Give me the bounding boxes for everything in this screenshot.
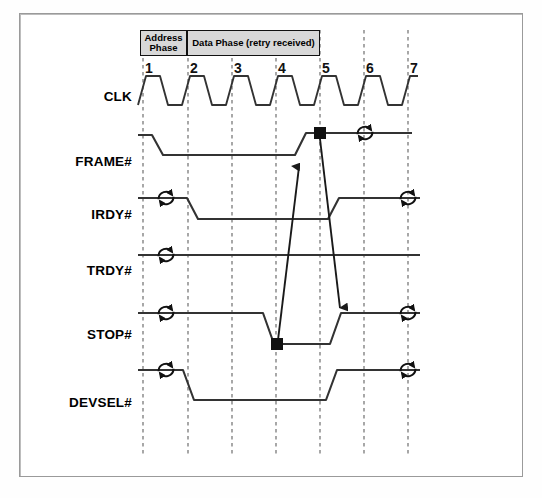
data-phase-box: Data Phase (retry received) <box>187 30 320 56</box>
frame-to-stop-arrow <box>320 139 340 308</box>
signal-irdy-label: IRDY# <box>0 207 132 222</box>
signal-frame-label: FRAME# <box>0 154 132 169</box>
address-phase-box: Address Phase <box>140 30 187 56</box>
signal-devsel-label: DEVSEL# <box>0 395 132 410</box>
diagram-canvas: CLKFRAME#IRDY#TRDY#STOP#DEVSEL# 1234567 … <box>0 0 542 498</box>
signal-waveforms <box>138 76 420 400</box>
waveform-devsel <box>138 370 420 400</box>
waveform-clk <box>138 76 418 105</box>
stop-assert-marker <box>272 339 283 350</box>
waveform-layer <box>0 0 542 498</box>
cycle-number-5: 5 <box>322 60 330 76</box>
cycle-number-2: 2 <box>190 60 198 76</box>
data-phase-label: Data Phase (retry received) <box>192 38 315 49</box>
signal-trdy-label: TRDY# <box>0 263 132 278</box>
cycle-number-3: 3 <box>234 60 242 76</box>
cycle-gridlines <box>143 30 408 455</box>
cycle-number-1: 1 <box>145 60 153 76</box>
waveform-irdy <box>138 198 420 219</box>
address-phase-label: Address Phase <box>141 33 186 54</box>
sample-point-markers <box>272 128 326 350</box>
turnaround-symbols <box>159 127 416 376</box>
signal-stop-label: STOP# <box>0 327 132 342</box>
stop-to-frame-arrow <box>278 167 299 340</box>
cycle-number-7: 7 <box>410 60 418 76</box>
signal-clk-label: CLK <box>0 89 132 104</box>
causality-arrows <box>278 139 340 340</box>
cycle-number-6: 6 <box>366 60 374 76</box>
cycle-number-4: 4 <box>278 60 286 76</box>
frame-stop-marker <box>315 128 326 139</box>
